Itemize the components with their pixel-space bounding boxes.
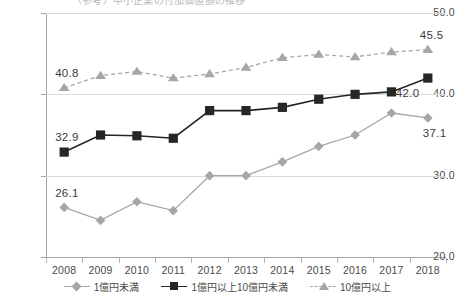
x-axis-tick-mark <box>373 258 374 263</box>
square-last-value-label: 42.0 <box>396 87 420 99</box>
triangle-marker <box>204 69 215 77</box>
triangle-last-value-label: 45.5 <box>420 29 444 41</box>
y-axis-line <box>46 13 47 258</box>
diamond-marker <box>132 197 142 207</box>
square-marker <box>278 103 287 112</box>
chart-legend: 1億円未満1億円以上10億円未満10億円以上 <box>0 277 455 295</box>
legend-item-1[interactable]: 1億円未満 <box>64 279 140 294</box>
legend-marker <box>170 282 178 290</box>
x-axis-tick-mark <box>119 258 120 263</box>
legend-item-2[interactable]: 1億円以上10億円未満 <box>161 279 288 294</box>
diamond-marker <box>387 108 397 118</box>
square-marker <box>205 106 214 115</box>
gridline <box>46 94 446 95</box>
triangle-marker <box>319 282 329 290</box>
square-marker <box>423 73 432 82</box>
square-first-value-label: 32.9 <box>55 131 79 143</box>
x-axis-tick-label: 2018 <box>406 264 450 276</box>
x-axis-tick-mark <box>82 258 83 263</box>
chart-title-cropped: （参考）中小企業の付加価値額の推移 <box>0 0 455 7</box>
legend-label: 1億円未満 <box>94 279 140 294</box>
x-axis-tick-mark <box>301 258 302 263</box>
y-axis-tick-label: 50.0 <box>415 6 455 18</box>
legend-item-3[interactable]: 10億円以上 <box>310 279 391 294</box>
triangle-marker <box>241 63 252 71</box>
triangle-marker <box>313 50 324 58</box>
legend-marker <box>319 282 329 290</box>
triangle-marker <box>168 73 179 81</box>
legend-key <box>161 281 187 291</box>
series-plot <box>0 0 455 298</box>
x-axis-tick-mark <box>191 258 192 263</box>
diamond-marker <box>96 216 106 226</box>
triangle-marker <box>95 71 106 79</box>
legend-key <box>64 281 90 291</box>
x-axis-tick-mark <box>446 258 447 263</box>
series-line <box>64 113 428 220</box>
gridline <box>46 13 446 14</box>
y-axis-tick-label: 30.0 <box>415 169 455 181</box>
series-diamond <box>59 108 432 225</box>
x-axis-tick-mark <box>228 258 229 263</box>
series-square <box>60 73 433 156</box>
square-marker <box>170 282 178 290</box>
triangle-marker <box>277 53 288 61</box>
y-axis-tick-label: 40.0 <box>415 87 455 99</box>
page-title: （参考）中小企業の付加価値額の推移 <box>72 0 245 7</box>
diamond-marker <box>314 142 324 152</box>
triangle-marker <box>132 67 143 75</box>
square-marker <box>314 95 323 104</box>
triangle-marker <box>59 83 70 91</box>
gridline <box>46 176 446 177</box>
diamond-marker <box>59 203 69 213</box>
legend-label: 1億円以上10億円未満 <box>191 279 288 294</box>
x-axis-tick-mark <box>337 258 338 263</box>
square-marker <box>132 131 141 140</box>
legend-key <box>310 281 336 291</box>
diamond-marker <box>71 282 81 292</box>
chart-container: （参考）中小企業の付加価値額の推移 50.040.030.020.0 20082… <box>0 0 455 298</box>
triangle-marker <box>422 45 433 53</box>
triangle-marker <box>386 47 397 55</box>
diamond-marker <box>423 113 433 123</box>
x-axis-tick-mark <box>410 258 411 263</box>
x-axis-tick-mark <box>155 258 156 263</box>
diamond-first-value-label: 26.1 <box>55 187 79 199</box>
triangle-first-value-label: 40.8 <box>55 67 79 79</box>
series-line <box>64 78 428 152</box>
square-marker <box>169 134 178 143</box>
x-axis-tick-mark <box>264 258 265 263</box>
diamond-last-value-label: 37.1 <box>423 127 447 139</box>
legend-marker <box>73 282 80 290</box>
series-triangle <box>59 45 433 91</box>
legend-label: 10億円以上 <box>340 279 391 294</box>
series-line <box>64 50 428 88</box>
diamond-marker <box>278 157 288 167</box>
square-marker <box>60 147 69 156</box>
diamond-marker <box>168 206 178 216</box>
square-marker <box>241 106 250 115</box>
x-axis-tick-mark <box>46 258 47 263</box>
diamond-marker <box>350 130 360 140</box>
triangle-marker <box>350 52 361 60</box>
square-marker <box>96 130 105 139</box>
y-axis-tick-label: 20.0 <box>415 250 455 262</box>
x-axis-line <box>46 257 446 258</box>
